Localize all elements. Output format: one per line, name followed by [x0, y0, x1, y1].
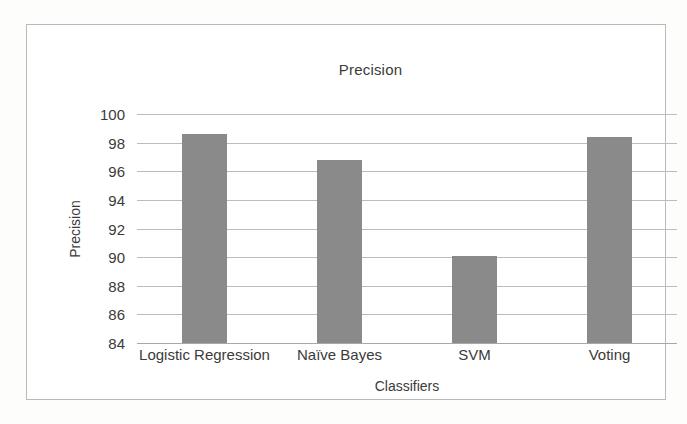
- x-tick-label: Logistic Regression: [139, 346, 270, 363]
- bar: [182, 134, 227, 343]
- y-tick-label: 84: [108, 335, 125, 352]
- gridline: 84: [137, 343, 677, 344]
- x-tick-label: Naïve Bayes: [297, 346, 382, 363]
- y-tick-label: 100: [100, 106, 125, 123]
- chart-page: Precision Precision 1009896949290888684 …: [0, 0, 687, 424]
- bar: [587, 137, 632, 343]
- x-axis-title: Classifiers: [137, 378, 677, 394]
- bar: [452, 256, 497, 343]
- x-tick-label: Voting: [589, 346, 631, 363]
- gridline: 100: [137, 114, 677, 115]
- y-tick-label: 98: [108, 134, 125, 151]
- chart-title: Precision: [27, 61, 687, 78]
- chart-frame: Precision Precision 1009896949290888684 …: [26, 24, 666, 400]
- y-tick-label: 86: [108, 306, 125, 323]
- bar: [317, 160, 362, 343]
- y-tick-label: 94: [108, 191, 125, 208]
- plot-area: 1009896949290888684 Logistic RegressionN…: [137, 114, 677, 343]
- x-tick-label: SVM: [458, 346, 491, 363]
- y-tick-label: 92: [108, 220, 125, 237]
- y-axis-title: Precision: [67, 159, 83, 299]
- y-tick-label: 90: [108, 249, 125, 266]
- y-tick-label: 96: [108, 163, 125, 180]
- y-tick-label: 88: [108, 277, 125, 294]
